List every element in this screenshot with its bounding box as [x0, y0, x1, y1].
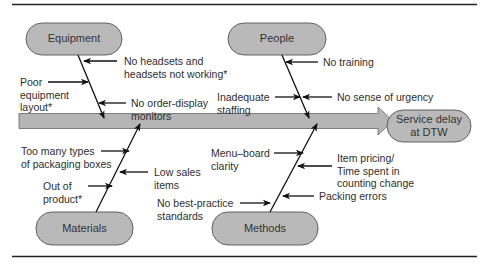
- methods-label: Methods: [212, 222, 318, 235]
- cause-inadequate-staffing: Inadequate staffing: [217, 91, 270, 116]
- cause-menu-board-clarity: Menu–board clarity: [211, 147, 270, 172]
- cause-no-best-practice-standards: No best-practice standards: [157, 197, 233, 222]
- cause-poor-equipment-layout: Poor equipment layout*: [20, 76, 69, 114]
- cause-no-headsets: No headsets and headsets not working*: [124, 55, 227, 80]
- cause-no-training: No training: [323, 56, 374, 69]
- materials-label: Materials: [36, 222, 133, 235]
- people-label: People: [228, 32, 326, 45]
- equipment-bone: [78, 55, 104, 118]
- cause-low-sales-items: Low sales items: [154, 166, 201, 191]
- methods-bone: [270, 124, 317, 212]
- equipment-label: Equipment: [26, 32, 122, 45]
- cause-item-pricing: Item pricing/ Time spent in counting cha…: [337, 152, 414, 190]
- cause-packing-errors: Packing errors: [319, 190, 387, 203]
- effect-label: Service delay at DTW: [387, 113, 471, 139]
- cause-out-of-product: Out of product*: [43, 180, 82, 205]
- people-bone: [282, 55, 309, 118]
- cause-no-sense-of-urgency: No sense of urgency: [337, 91, 433, 104]
- cause-no-order-display-monitors: No order-display monitors: [131, 97, 208, 122]
- cause-too-many-packaging-types: Too many types of packaging boxes: [21, 145, 111, 170]
